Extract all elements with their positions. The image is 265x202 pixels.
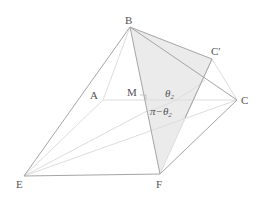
label-e: E [16,178,23,190]
label-m: M [127,86,137,98]
label-f: F [156,178,162,190]
label-c: C [241,94,248,106]
geometry-diagram: B A M C C′ E F θ2 π−θ2 [0,0,265,202]
label-b: B [125,14,132,26]
label-c-prime: C′ [211,45,221,57]
faint-lines [24,27,237,176]
label-a: A [90,89,98,101]
main-edges [24,27,237,176]
